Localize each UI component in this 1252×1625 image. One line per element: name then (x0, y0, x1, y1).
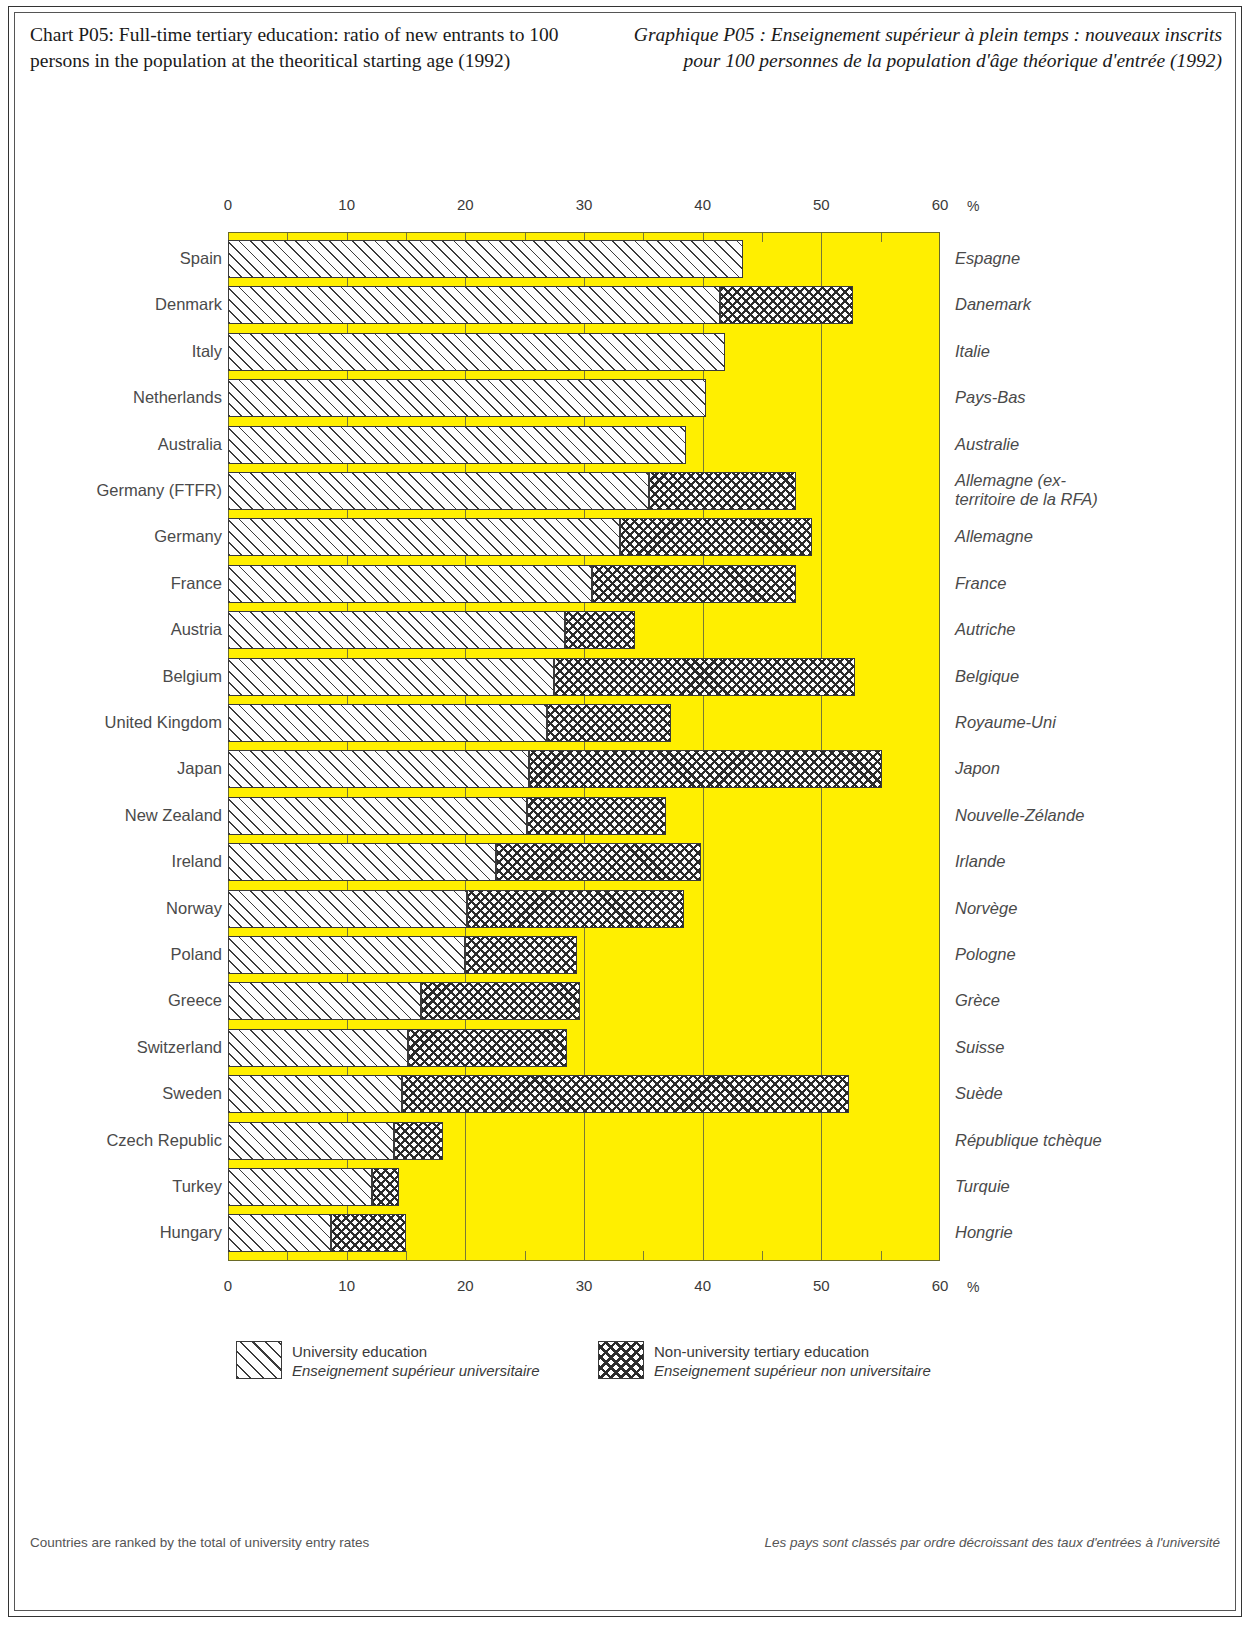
x-tick-label-60: 60 (932, 1277, 949, 1294)
category-label-en: Sweden (26, 1084, 222, 1103)
category-label-en: Turkey (26, 1177, 222, 1196)
category-label-fr: République tchèque (955, 1131, 1235, 1150)
bar-segment-non-university (554, 658, 854, 696)
bar-row: IrelandIrlande (0, 843, 1252, 881)
category-label-en: Austria (26, 620, 222, 639)
bar-segment-university (228, 472, 649, 510)
bar-segment-university (228, 843, 496, 881)
category-label-en: Ireland (26, 852, 222, 871)
bar-row: SwedenSuède (0, 1075, 1252, 1113)
category-label-fr: Irlande (955, 852, 1235, 871)
bar-segment-non-university (592, 565, 796, 603)
bar-segment-university (228, 1168, 372, 1206)
legend-label-non-university: Non-university tertiary education Enseig… (654, 1341, 931, 1380)
bar-row: ItalyItalie (0, 333, 1252, 371)
bar-segment-university (228, 890, 467, 928)
category-label-en: Spain (26, 249, 222, 268)
footnote-english: Countries are ranked by the total of uni… (30, 1534, 450, 1552)
bar-row: JapanJapon (0, 750, 1252, 788)
bar-segment-non-university (331, 1214, 406, 1252)
category-label-fr: Royaume-Uni (955, 713, 1235, 732)
bar-row: SwitzerlandSuisse (0, 1029, 1252, 1067)
bar-row: PolandPologne (0, 936, 1252, 974)
bar-row: AustriaAutriche (0, 611, 1252, 649)
bar-segment-non-university (720, 286, 853, 324)
bar-segment-non-university (496, 843, 701, 881)
bar-segment-university (228, 379, 706, 417)
category-label-fr: Suisse (955, 1038, 1235, 1057)
bar-row: BelgiumBelgique (0, 658, 1252, 696)
bar-segment-non-university (394, 1122, 443, 1160)
category-label-fr: Grèce (955, 991, 1235, 1010)
bar-segment-non-university (402, 1075, 848, 1113)
bar-segment-university (228, 518, 620, 556)
bar-segment-non-university (467, 890, 684, 928)
bar-segment-non-university (649, 472, 796, 510)
legend-non-university-en: Non-university tertiary education (654, 1343, 869, 1360)
category-label-fr: Italie (955, 342, 1235, 361)
bar-row: Czech RepublicRépublique tchèque (0, 1122, 1252, 1160)
x-axis-bottom: 0102030405060% (0, 1277, 1252, 1297)
hatch-diagonal-swatch-icon (236, 1341, 282, 1379)
bar-segment-university (228, 936, 465, 974)
bar-row: SpainEspagne (0, 240, 1252, 278)
bar-segment-university (228, 286, 720, 324)
category-label-en: Poland (26, 945, 222, 964)
legend-non-university-fr: Enseignement supérieur non universitaire (654, 1362, 931, 1379)
bar-segment-university (228, 704, 547, 742)
x-tick-label-50: 50 (813, 1277, 830, 1294)
category-label-en: Greece (26, 991, 222, 1010)
x-tick-label-20: 20 (457, 1277, 474, 1294)
category-label-en: New Zealand (26, 806, 222, 825)
category-label-en: Norway (26, 899, 222, 918)
x-tick-label-0: 0 (224, 1277, 232, 1294)
category-label-en: Switzerland (26, 1038, 222, 1057)
category-label-en: United Kingdom (26, 713, 222, 732)
bar-segment-university (228, 1214, 331, 1252)
category-label-fr: Belgique (955, 667, 1235, 686)
bar-segment-university (228, 982, 421, 1020)
bar-segment-university (228, 1122, 394, 1160)
category-label-fr: Allemagne (ex-territoire de la RFA) (955, 471, 1235, 509)
category-label-en: Germany (26, 527, 222, 546)
bar-row: NetherlandsPays-Bas (0, 379, 1252, 417)
category-label-fr: Allemagne (955, 527, 1235, 546)
category-label-fr: Norvège (955, 899, 1235, 918)
bar-segment-non-university (408, 1029, 567, 1067)
category-label-fr: Pays-Bas (955, 388, 1235, 407)
x-tick-label-10: 10 (338, 1277, 355, 1294)
bar-segment-university (228, 1075, 402, 1113)
bar-segment-university (228, 240, 743, 278)
bar-segment-university (228, 658, 554, 696)
category-label-fr: Nouvelle-Zélande (955, 806, 1235, 825)
category-label-fr: France (955, 574, 1235, 593)
bar-row: New ZealandNouvelle-Zélande (0, 797, 1252, 835)
footnote-french: Les pays sont classés par ordre décroiss… (700, 1534, 1220, 1552)
bar-segment-non-university (465, 936, 577, 974)
category-label-fr: Hongrie (955, 1223, 1235, 1242)
category-label-fr: Espagne (955, 249, 1235, 268)
category-label-fr: Japon (955, 759, 1235, 778)
bar-segment-non-university (527, 797, 666, 835)
category-label-fr: Autriche (955, 620, 1235, 639)
category-label-en: Italy (26, 342, 222, 361)
category-label-en: Germany (FTFR) (26, 481, 222, 500)
chart-page: Chart P05: Full-time tertiary education:… (0, 0, 1252, 1625)
bar-row: United KingdomRoyaume-Uni (0, 704, 1252, 742)
bar-segment-non-university (372, 1168, 399, 1206)
bar-segment-university (228, 565, 592, 603)
bar-segment-university (228, 426, 686, 464)
bar-segment-non-university (620, 518, 812, 556)
bar-row: HungaryHongrie (0, 1214, 1252, 1252)
legend-university-fr: Enseignement supérieur universitaire (292, 1362, 540, 1379)
category-label-en: Australia (26, 435, 222, 454)
category-label-en: Netherlands (26, 388, 222, 407)
bar-row: Germany (FTFR)Allemagne (ex-territoire d… (0, 472, 1252, 510)
legend-item-non-university: Non-university tertiary education Enseig… (598, 1341, 931, 1380)
hatch-crosshatch-swatch-icon (598, 1341, 644, 1379)
bar-segment-non-university (547, 704, 670, 742)
x-tick-label-30: 30 (576, 1277, 593, 1294)
bar-row: AustraliaAustralie (0, 426, 1252, 464)
category-label-fr: Pologne (955, 945, 1235, 964)
bar-row: TurkeyTurquie (0, 1168, 1252, 1206)
